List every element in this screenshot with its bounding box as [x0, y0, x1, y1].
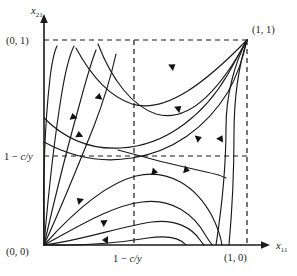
corner-label-bottom-right: (1, 0): [224, 252, 247, 264]
tick-label-x-interior: 1 − c/y: [113, 253, 142, 264]
flow-arrow: [151, 167, 159, 176]
tick-label-y-interior: 1 − c/y: [4, 151, 33, 162]
y-axis-label: x21: [30, 5, 43, 19]
tick-label-x-prefix: 1 −: [113, 253, 129, 264]
flow-arrow: [95, 92, 104, 99]
x-axis-label-subscript: 11: [281, 246, 288, 254]
trajectory-curve: [76, 40, 247, 106]
corner-label-top-left: (0, 1): [6, 35, 29, 47]
flow-arrow: [195, 133, 204, 143]
tick-label-y-expr: c/y: [20, 151, 33, 162]
trajectory-curve: [44, 46, 74, 245]
trajectory-curve: [44, 40, 247, 148]
trajectory-curve: [44, 54, 116, 245]
trajectory-curve: [98, 40, 247, 116]
phase-portrait-figure: x21 x11 (0, 1) (1, 1) (0, 0) (1, 0) 1 − …: [0, 0, 297, 276]
corner-label-origin: (0, 0): [6, 246, 29, 258]
flow-arrow: [216, 133, 226, 142]
x-axis-label: x11: [275, 240, 288, 254]
phase-portrait-svg: x21 x11 (0, 1) (1, 1) (0, 0) (1, 0) 1 − …: [0, 0, 297, 276]
trajectory-curve: [44, 50, 96, 245]
trajectory-curve: [44, 40, 247, 160]
x-axis-arrowhead: [261, 241, 270, 249]
corner-label-top-right: (1, 1): [252, 24, 275, 36]
flow-arrow: [75, 131, 83, 138]
flow-arrow: [174, 103, 184, 113]
trajectory-curve: [44, 201, 212, 245]
tick-label-y-prefix: 1 −: [4, 151, 20, 162]
trajectory-curve: [118, 150, 226, 178]
flow-arrow: [98, 217, 107, 227]
arrow-markers-group: [69, 61, 226, 244]
flow-arrow: [168, 61, 178, 71]
y-axis-label-subscript: 21: [36, 11, 44, 19]
trajectories-group: [44, 40, 247, 245]
tick-label-x-expr: c/y: [129, 253, 142, 264]
flow-arrow: [74, 195, 84, 205]
